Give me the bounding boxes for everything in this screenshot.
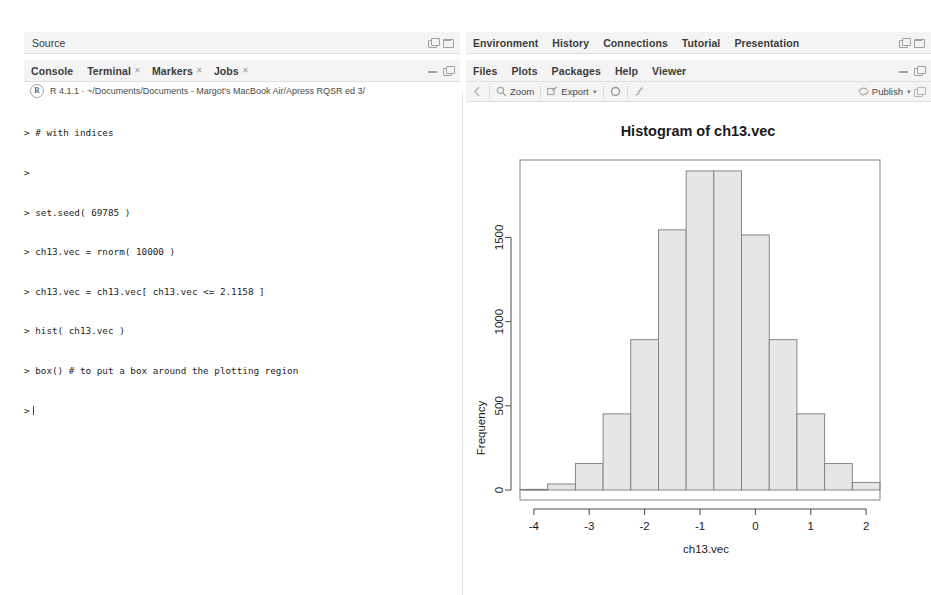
environment-window-controls	[899, 38, 925, 48]
console-line: >	[24, 166, 460, 179]
restore-icon[interactable]	[428, 38, 439, 48]
tab-markers[interactable]: Markers	[145, 65, 200, 77]
y-tick-label: 1000	[493, 309, 505, 335]
tab-terminal-close-icon[interactable]: ✕	[134, 66, 145, 75]
zoom-label: Zoom	[510, 86, 534, 97]
tab-jobs[interactable]: Jobs	[207, 65, 246, 77]
histogram-bar	[548, 484, 576, 490]
panel-divider[interactable]	[462, 92, 463, 595]
x-tick-label: -3	[584, 520, 594, 532]
plots-panel-tabbar: Files Plots Packages Help Viewer	[466, 60, 931, 82]
tab-plots[interactable]: Plots	[504, 65, 544, 77]
x-tick-label: -1	[695, 520, 705, 532]
console-line: > ch13.vec = ch13.vec[ ch13.vec <= 2.115…	[24, 285, 460, 298]
chevron-down-icon: ▾	[907, 88, 911, 96]
console-line: > box() # to put a box around the plotti…	[24, 364, 460, 377]
publish-label: Publish	[872, 86, 903, 97]
histogram-bar	[769, 340, 797, 490]
restore-icon[interactable]	[443, 66, 454, 76]
tab-presentation[interactable]: Presentation	[727, 37, 806, 49]
x-tick-label: 2	[863, 520, 869, 532]
console-session-info: R 4.1.1 · ~/Documents/Documents - Margot…	[50, 86, 365, 96]
y-tick-label: 500	[493, 396, 505, 415]
environment-panel-tabbar: Environment History Connections Tutorial…	[466, 32, 931, 54]
tab-files[interactable]: Files	[466, 65, 504, 77]
magnifier-icon	[496, 86, 507, 97]
tab-terminal[interactable]: Terminal	[80, 65, 138, 77]
export-label: Export	[561, 86, 588, 97]
plots-window-controls	[899, 66, 925, 76]
chart-title: Histogram of ch13.vec	[621, 123, 776, 139]
minimize-icon[interactable]	[899, 66, 910, 76]
histogram-bar	[742, 235, 770, 490]
x-tick-label: -4	[529, 520, 540, 532]
tab-console[interactable]: Console	[24, 65, 80, 77]
plots-toolbar: Zoom Export ▾	[466, 82, 931, 102]
x-tick-label: 1	[808, 520, 814, 532]
console-prompt: >	[24, 405, 30, 416]
x-axis-label: ch13.vec	[683, 543, 729, 555]
export-icon	[547, 86, 558, 97]
back-arrow-icon	[472, 86, 483, 97]
histogram-bar	[714, 171, 742, 490]
console-cursor	[33, 406, 34, 415]
tab-viewer[interactable]: Viewer	[645, 65, 693, 77]
export-button[interactable]: Export ▾	[541, 86, 602, 97]
maximize-icon[interactable]	[914, 38, 925, 48]
plot-output-area[interactable]: Histogram of ch13.vec Frequency ch13.vec…	[466, 102, 931, 595]
source-panel-tabbar: Source	[24, 32, 460, 54]
console-window-controls	[428, 66, 454, 76]
r-logo-icon: R	[30, 84, 44, 98]
tab-help[interactable]: Help	[608, 65, 645, 77]
y-axis-label: Frequency	[475, 401, 487, 456]
histogram-bar	[575, 464, 603, 490]
tab-environment[interactable]: Environment	[466, 37, 545, 49]
histogram-plot: Histogram of ch13.vec Frequency ch13.vec…	[466, 102, 931, 595]
zoom-button[interactable]: Zoom	[490, 86, 540, 97]
console-line: > hist( ch13.vec )	[24, 324, 460, 337]
restore-icon[interactable]	[899, 38, 910, 48]
back-button[interactable]	[466, 86, 489, 97]
y-tick-label: 1500	[493, 225, 505, 251]
console-session-header: R R 4.1.1 · ~/Documents/Documents - Marg…	[24, 83, 460, 98]
histogram-bar	[825, 464, 853, 490]
restore-icon[interactable]	[914, 66, 925, 76]
histogram-bar	[797, 414, 825, 490]
console-output[interactable]: > # with indices > > set.seed( 69785 ) >…	[24, 100, 460, 443]
broom-icon	[634, 86, 645, 97]
clear-all-plots-button[interactable]	[628, 86, 651, 97]
remove-plot-button[interactable]	[604, 86, 627, 97]
histogram-bar	[603, 414, 631, 490]
rstudio-window: Source Console Terminal ✕ Markers ✕ Jobs…	[0, 0, 931, 595]
y-tick-label: 0	[493, 487, 505, 493]
console-panel-tabbar: Console Terminal ✕ Markers ✕ Jobs ✕	[24, 60, 460, 82]
tab-tutorial[interactable]: Tutorial	[675, 37, 728, 49]
console-line: > # with indices	[24, 126, 460, 139]
tab-source[interactable]: Source	[24, 37, 65, 49]
publish-icon	[858, 86, 869, 97]
histogram-bar	[686, 171, 714, 490]
maximize-icon[interactable]	[443, 38, 454, 48]
chevron-down-icon: ▾	[593, 88, 597, 96]
tab-markers-close-icon[interactable]: ✕	[196, 66, 207, 75]
tab-jobs-close-icon[interactable]: ✕	[242, 66, 253, 75]
tab-history[interactable]: History	[545, 37, 596, 49]
histogram-bar	[852, 482, 880, 490]
histogram-bar	[520, 489, 548, 490]
minimize-icon[interactable]	[428, 66, 439, 76]
console-prompt-line: >	[24, 404, 460, 417]
x-tick-label: 0	[752, 520, 758, 532]
tab-packages[interactable]: Packages	[545, 65, 608, 77]
console-line: > set.seed( 69785 )	[24, 206, 460, 219]
histogram-bar	[658, 230, 686, 490]
remove-circle-icon	[610, 86, 621, 97]
source-window-controls	[428, 38, 454, 48]
histogram-bar	[631, 340, 659, 490]
publish-settings-icon[interactable]	[914, 87, 925, 97]
x-tick-label: -2	[639, 520, 649, 532]
tab-connections[interactable]: Connections	[596, 37, 675, 49]
publish-button[interactable]: Publish ▾	[858, 86, 925, 97]
console-line: > ch13.vec = rnorm( 10000 )	[24, 245, 460, 258]
